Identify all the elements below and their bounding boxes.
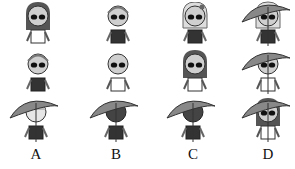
figure-r1-c1 <box>18 2 58 47</box>
option-d-figure[interactable] <box>240 96 295 144</box>
option-c-figure[interactable] <box>165 96 221 144</box>
option-d-label[interactable]: D <box>258 146 278 163</box>
figure-r2-c3 <box>175 50 215 95</box>
bow-icon <box>200 5 205 10</box>
figure-r2-c4 <box>240 48 295 96</box>
option-a-figure[interactable] <box>8 96 64 144</box>
option-b-figure[interactable] <box>88 96 144 144</box>
figure-r1-c4 <box>240 0 295 48</box>
figure-r2-c2 <box>98 50 138 95</box>
option-b-label[interactable]: B <box>106 146 126 163</box>
figure-r2-c1 <box>18 50 58 95</box>
figure-r1-c3 <box>175 2 215 47</box>
option-c-label[interactable]: C <box>183 146 203 163</box>
figure-r1-c2 <box>98 2 138 47</box>
option-a-label[interactable]: A <box>26 146 46 163</box>
